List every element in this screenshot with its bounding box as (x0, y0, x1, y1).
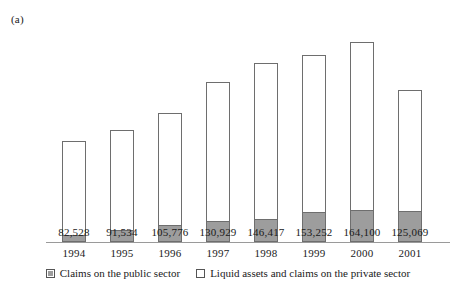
chart-legend: Claims on the public sector Liquid asset… (0, 267, 456, 279)
bar-value-label: 125,069 (391, 226, 428, 238)
legend-item-private-sector[interactable]: Liquid assets and claims on the private … (196, 267, 410, 279)
bar-value-label: 164,100 (343, 226, 380, 238)
stacked-bar[interactable] (302, 55, 326, 242)
x-tick-1996: 1996 (148, 247, 192, 259)
bar-segment-private (399, 91, 421, 211)
legend-label-public-sector: Claims on the public sector (60, 267, 180, 279)
bar-value-label: 91,534 (106, 226, 137, 238)
bar-segment-private (207, 83, 229, 221)
legend-label-private-sector: Liquid assets and claims on the private … (210, 267, 410, 279)
bar-segment-private (303, 56, 325, 212)
x-tick-1997: 1997 (196, 247, 240, 259)
filled-square-icon (46, 269, 55, 278)
stacked-bar[interactable] (398, 90, 422, 242)
bar-value-label: 146,417 (247, 226, 284, 238)
stacked-bar[interactable] (206, 82, 230, 242)
x-tick-2001: 2001 (388, 247, 432, 259)
bar-segment-private (255, 64, 277, 219)
bar-value-label: 105,776 (151, 226, 188, 238)
x-tick-1994: 1994 (52, 247, 96, 259)
stacked-bar[interactable] (350, 42, 374, 242)
bar-value-label: 82,528 (58, 226, 89, 238)
stacked-bar[interactable] (158, 113, 182, 242)
x-tick-1999: 1999 (292, 247, 336, 259)
x-tick-2000: 2000 (340, 247, 384, 259)
stacked-bar[interactable] (254, 63, 278, 242)
chart-canvas: (a) 82,528 91,534 105,776 130,929 (0, 0, 456, 291)
bar-segment-private (159, 114, 181, 225)
legend-item-public-sector[interactable]: Claims on the public sector (46, 267, 180, 279)
bar-value-label: 153,252 (295, 226, 332, 238)
bar-segment-private (111, 131, 133, 230)
hollow-square-icon (196, 269, 205, 278)
x-tick-1998: 1998 (244, 247, 288, 259)
bar-segment-private (63, 142, 85, 235)
x-axis-line (46, 242, 450, 243)
bar-value-label: 130,929 (199, 226, 236, 238)
panel-label: (a) (11, 13, 24, 25)
x-tick-1995: 1995 (100, 247, 144, 259)
bar-segment-private (351, 43, 373, 210)
